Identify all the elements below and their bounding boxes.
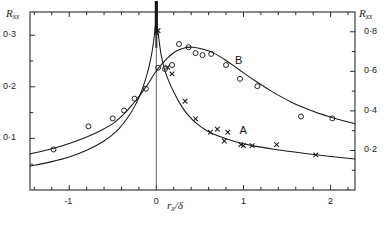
y-axis-left-tick-label: 0·3 bbox=[3, 29, 16, 39]
y-axis-right-tick-label: 0·6 bbox=[364, 65, 377, 75]
y-axis-right-tick-label: 0·8 bbox=[364, 26, 377, 36]
data-point-a bbox=[170, 72, 175, 77]
data-point-b bbox=[176, 42, 181, 47]
plot-canvas bbox=[0, 0, 387, 226]
data-point-a bbox=[222, 139, 227, 144]
y-axis-left-title: Rxx bbox=[6, 7, 19, 21]
data-point-a bbox=[225, 130, 230, 135]
data-point-b bbox=[237, 76, 242, 81]
data-point-b bbox=[298, 114, 303, 119]
data-point-b bbox=[51, 147, 56, 152]
y-axis-left-title-main: R bbox=[6, 7, 13, 19]
curve-label-b: B bbox=[235, 54, 242, 66]
data-point-a bbox=[193, 117, 198, 122]
figure-container: Rxx Rxx rx/δ A B 0·10·20·3 0·20·40·60·8 … bbox=[0, 0, 387, 226]
plot-frame bbox=[30, 12, 355, 190]
x-axis-title: rx/δ bbox=[167, 199, 183, 213]
data-point-a bbox=[215, 127, 220, 132]
x-axis-title-tail: /δ bbox=[175, 199, 183, 211]
y-axis-left-title-sub: xx bbox=[13, 12, 20, 21]
divergence-spike-taper bbox=[155, 32, 157, 48]
data-point-a bbox=[183, 99, 188, 104]
data-point-b bbox=[255, 84, 260, 89]
x-axis-tick-label: -1 bbox=[64, 196, 72, 206]
curve-label-a: A bbox=[239, 124, 246, 136]
data-point-b bbox=[193, 51, 198, 56]
x-axis-tick-label: 0 bbox=[154, 196, 159, 206]
y-axis-left-tick-label: 0·2 bbox=[3, 81, 16, 91]
data-point-b bbox=[110, 116, 115, 121]
data-point-b bbox=[132, 96, 137, 101]
data-point-a bbox=[274, 142, 279, 147]
y-axis-left-tick-label: 0·1 bbox=[3, 132, 16, 142]
x-axis-tick-label: 1 bbox=[241, 196, 246, 206]
curve-a-left-branch bbox=[30, 26, 155, 166]
y-axis-right-tick-label: 0·2 bbox=[364, 144, 377, 154]
curve-b bbox=[30, 47, 355, 154]
data-point-b bbox=[224, 63, 229, 68]
y-axis-right-title: Rxx bbox=[359, 7, 372, 21]
data-point-b bbox=[86, 124, 91, 129]
x-axis-tick-label: 2 bbox=[328, 196, 333, 206]
y-axis-right-title-sub: xx bbox=[366, 12, 373, 21]
data-point-b bbox=[200, 53, 205, 58]
data-point-b bbox=[122, 108, 127, 113]
data-point-b bbox=[170, 63, 175, 68]
y-axis-right-title-main: R bbox=[359, 7, 366, 19]
y-axis-right-tick-label: 0·4 bbox=[364, 105, 377, 115]
